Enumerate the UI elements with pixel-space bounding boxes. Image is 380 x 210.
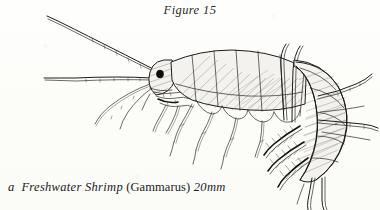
caption-scale: 20mm <box>194 180 226 194</box>
freshwater-shrimp-illustration <box>0 0 380 210</box>
eye-icon <box>156 70 163 78</box>
caption-genus: (Gammarus) <box>126 180 190 194</box>
caption-common-name: Freshwater Shrimp <box>21 180 123 194</box>
antenna-1-upper <box>47 16 155 72</box>
figure-caption: a Freshwater Shrimp (Gammarus) 20mm <box>8 180 226 195</box>
scanned-page: Figure 15 <box>0 0 380 210</box>
mouthparts <box>142 92 193 134</box>
antenna-2-lower <box>44 77 152 82</box>
